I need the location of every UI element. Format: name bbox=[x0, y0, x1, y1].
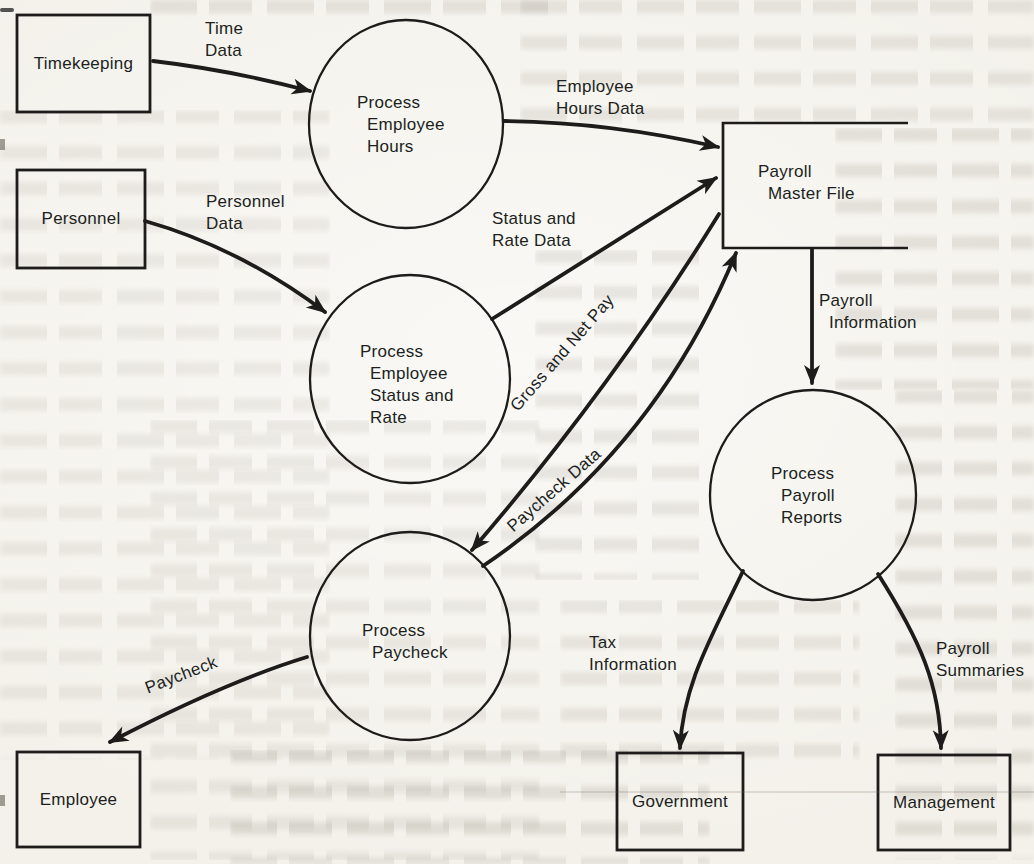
process-circle-payroll-reports bbox=[710, 390, 916, 600]
flow-time-data bbox=[153, 61, 310, 91]
dataflow-diagram bbox=[0, 0, 1034, 864]
scanned-page: Timekeeping Personnel Employee Governmen… bbox=[0, 0, 1034, 864]
entity-box-timekeeping bbox=[17, 15, 150, 112]
entity-box-personnel bbox=[17, 170, 145, 268]
entity-box-government bbox=[617, 753, 743, 850]
flow-payroll-summaries bbox=[878, 574, 941, 748]
payroll-dfd-svg bbox=[0, 0, 1034, 864]
entity-box-management bbox=[878, 755, 1010, 850]
process-circle-employee-status-rate bbox=[310, 275, 510, 483]
flow-personnel-data bbox=[145, 221, 325, 312]
process-circle-paycheck bbox=[310, 532, 510, 740]
flow-tax-information bbox=[680, 571, 743, 748]
flow-paycheck bbox=[110, 657, 307, 742]
entity-box-employee bbox=[17, 752, 140, 847]
data-store-payroll-master-file bbox=[723, 123, 908, 248]
process-circle-employee-hours bbox=[309, 20, 503, 228]
flow-status-rate-data bbox=[492, 178, 716, 319]
flow-employee-hours-data bbox=[504, 121, 718, 147]
